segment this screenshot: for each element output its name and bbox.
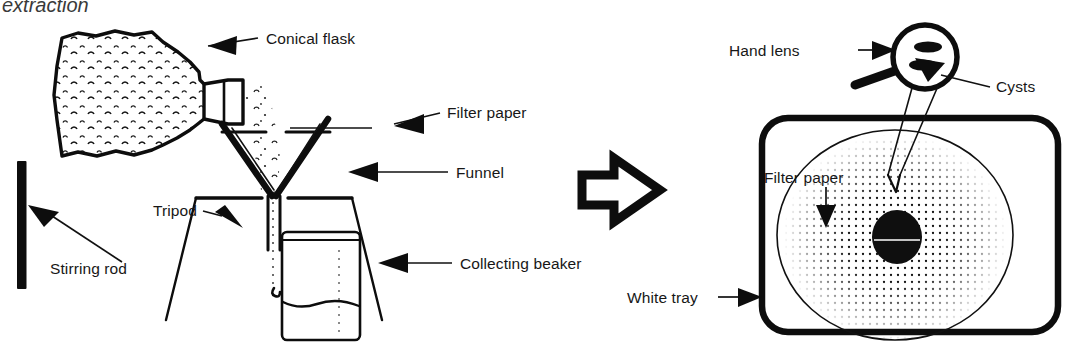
process-arrow-icon	[582, 158, 660, 222]
white-tray-callout	[718, 288, 762, 307]
label-filter-paper-left: Filter paper	[447, 104, 527, 121]
figure-root: extraction	[0, 0, 1073, 348]
stirring-rod-callout	[28, 205, 122, 262]
label-hand-lens: Hand lens	[729, 42, 800, 59]
diagram-canvas: extraction	[0, 0, 1073, 348]
label-conical-flask: Conical flask	[266, 30, 355, 47]
filter-paper-disc	[770, 125, 1022, 347]
label-white-tray: White tray	[627, 289, 698, 306]
label-filter-paper-right: Filter paper	[764, 169, 844, 186]
collecting-beaker-callout	[378, 253, 452, 273]
label-funnel: Funnel	[456, 164, 504, 181]
figure-caption-title: extraction	[2, 0, 89, 16]
collecting-beaker	[282, 232, 360, 340]
filter-paper-callout	[394, 113, 440, 134]
conical-flask	[54, 31, 243, 156]
hand-lens	[855, 25, 957, 89]
conical-flask-callout	[208, 36, 258, 55]
stirring-rod	[17, 161, 27, 289]
filtrate-drop	[272, 288, 280, 297]
funnel-callout	[348, 162, 448, 182]
label-tripod: Tripod	[153, 202, 197, 219]
label-cysts: Cysts	[996, 78, 1035, 95]
tripod-callout	[203, 205, 243, 228]
label-collecting-beaker: Collecting beaker	[460, 255, 581, 272]
right-panel-group: Filter paper Hand le	[627, 25, 1058, 347]
filtrate-drip	[271, 200, 277, 288]
label-stirring-rod: Stirring rod	[50, 260, 127, 277]
left-panel-group: Conical flask Filter paper Funnel Tripod	[17, 30, 581, 340]
